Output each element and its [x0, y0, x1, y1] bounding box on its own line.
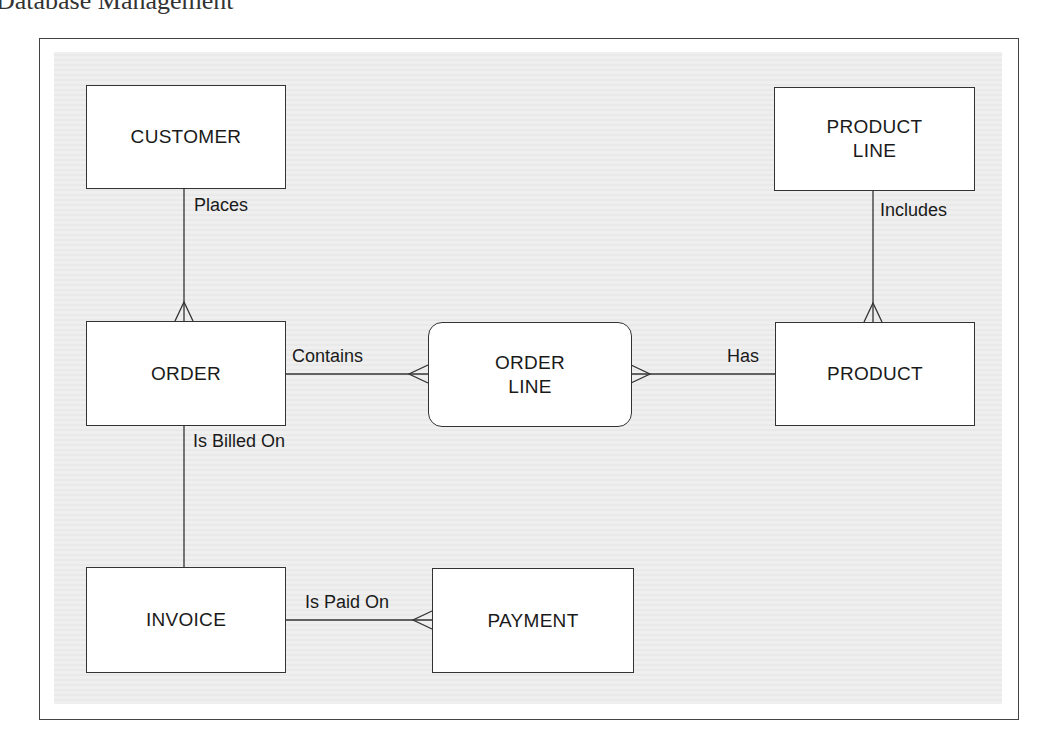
entity-label-line1: PRODUCT — [826, 115, 922, 139]
entity-payment[interactable]: PAYMENT — [432, 568, 634, 673]
entity-order[interactable]: ORDER — [86, 321, 286, 426]
rel-label-has: Has — [727, 346, 759, 367]
entity-label: PAYMENT — [487, 610, 578, 631]
rel-label-is-billed-on: Is Billed On — [193, 431, 285, 452]
entity-product[interactable]: PRODUCT — [775, 322, 975, 426]
entity-label-line2: LINE — [826, 139, 922, 163]
entity-label-line2: LINE — [495, 375, 565, 399]
entity-order-line[interactable]: ORDER LINE — [428, 322, 632, 427]
entity-product-line[interactable]: PRODUCT LINE — [774, 87, 975, 191]
entity-label: CUSTOMER — [131, 126, 242, 147]
rel-label-contains: Contains — [292, 346, 363, 367]
entity-label: INVOICE — [146, 609, 226, 630]
rel-label-is-paid-on: Is Paid On — [305, 592, 389, 613]
entity-customer[interactable]: CUSTOMER — [86, 85, 286, 189]
entity-label: ORDER — [151, 363, 221, 384]
entity-invoice[interactable]: INVOICE — [86, 567, 286, 673]
entity-label: PRODUCT — [827, 363, 923, 384]
rel-label-includes: Includes — [880, 200, 947, 221]
entity-label-line1: ORDER — [495, 351, 565, 375]
rel-label-places: Places — [194, 195, 248, 216]
